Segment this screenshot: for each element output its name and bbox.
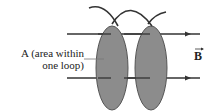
wire-arc-right <box>148 12 166 24</box>
arrow-icon <box>185 32 191 37</box>
field-label: B <box>194 49 202 64</box>
area-label-line1: A (area within <box>6 47 84 59</box>
area-label: A (area within one loop) <box>6 47 84 71</box>
loop-left <box>96 26 128 110</box>
loop-right <box>135 26 167 110</box>
wire-arc-middle <box>112 10 152 26</box>
arrow-icon <box>185 76 191 81</box>
area-label-line2: one loop) <box>6 59 84 71</box>
wire-arc-left <box>89 7 118 26</box>
